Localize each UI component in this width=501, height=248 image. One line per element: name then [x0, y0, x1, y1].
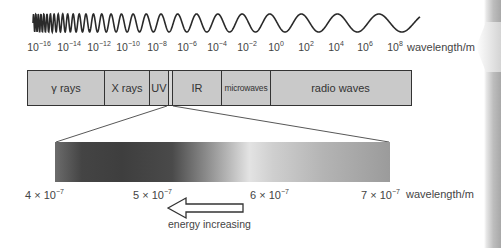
visible-axis-unit-label: wavelength/m — [406, 188, 474, 200]
visible-tick-label: 6 × 10−7 — [250, 188, 289, 201]
visible-tick-label: 4 × 10−7 — [25, 188, 64, 201]
energy-increasing-label: energy increasing — [168, 218, 251, 230]
visible-spectrum-gradient — [55, 142, 390, 182]
energy-arrow-left-icon — [165, 196, 247, 220]
zoom-lines — [0, 0, 501, 160]
visible-tick-label: 7 × 10−7 — [361, 188, 400, 201]
